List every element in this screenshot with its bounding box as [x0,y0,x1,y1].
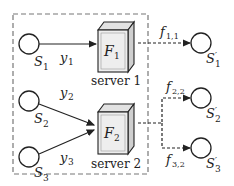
svg-text:3: 3 [68,157,74,167]
svg-text:S: S [34,111,43,126]
svg-text:1: 1 [43,62,49,72]
diagram-canvas: S 1 S 2 S 3 y 1 y 2 y 3 F 1 server 1 [0,0,234,186]
svg-text:2: 2 [215,114,221,124]
svg-text:2: 2 [43,119,49,129]
svg-text:3: 3 [43,173,49,183]
svg-text:3: 3 [215,164,221,174]
svg-text:1: 1 [215,59,221,69]
svg-text:2: 2 [68,92,74,102]
svg-text:y: y [59,150,68,165]
edge-f32: f 3,2 [162,123,190,169]
svg-text:y: y [59,50,68,65]
server-2: F 2 server 2 [91,104,141,171]
svg-text:S: S [34,165,43,180]
source-node-s3: S 3 [19,147,49,183]
svg-text:server 1: server 1 [91,74,141,88]
svg-text:S: S [206,51,215,66]
source-node-s1: S 1 [19,34,49,72]
destination-node-s2p: S ′ 2 [191,88,221,124]
svg-text:3,2: 3,2 [172,160,185,169]
svg-text:2: 2 [114,133,120,143]
svg-text:2,2: 2,2 [172,87,185,96]
svg-text:1: 1 [68,57,74,67]
source-node-s2: S 2 [19,91,49,129]
svg-text:y: y [59,85,68,100]
svg-text:server 2: server 2 [91,157,141,171]
svg-text:S: S [206,156,215,171]
server-1: F 1 server 1 [91,22,141,88]
edge-f22: f 2,2 [138,79,190,123]
edge-y3: y 3 [39,130,94,167]
svg-text:S: S [34,54,43,69]
destination-node-s1p: S ′ 1 [191,33,221,69]
svg-text:1,1: 1,1 [166,32,179,41]
destination-node-s3p: S ′ 3 [191,138,221,174]
svg-text:1: 1 [114,51,120,61]
svg-text:S: S [206,106,215,121]
edge-f11: f 1,1 [138,24,190,43]
